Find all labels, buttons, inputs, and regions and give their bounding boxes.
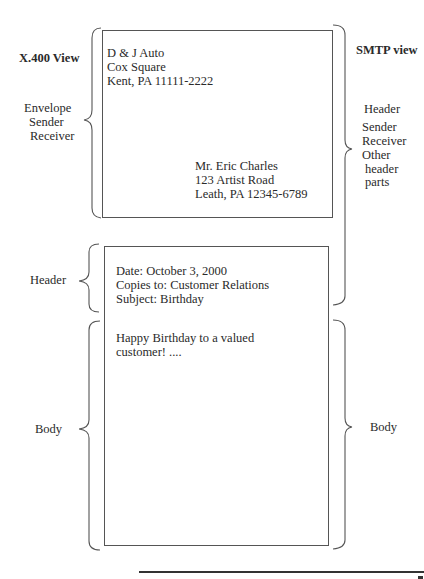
sender-line-3: Kent, PA 11111-2222 bbox=[107, 74, 213, 89]
body-label-left: Body bbox=[35, 422, 62, 437]
body-line-1: Happy Birthday to a valued bbox=[116, 331, 254, 346]
body-label-right: Body bbox=[370, 420, 397, 435]
message-box: Date: October 3, 2000 Copies to: Custome… bbox=[104, 246, 329, 546]
sender-line-2: Cox Square bbox=[107, 60, 166, 75]
header-label-right: Header bbox=[364, 102, 400, 117]
envelope-box: D & J Auto Cox Square Kent, PA 11111-222… bbox=[102, 30, 333, 218]
body-line-2: customer! .... bbox=[116, 345, 182, 360]
recipient-line-1: Mr. Eric Charles bbox=[195, 159, 278, 174]
recipient-line-3: Leath, PA 12345-6789 bbox=[195, 187, 307, 202]
body-brace-left bbox=[79, 321, 100, 550]
page-rule bbox=[139, 571, 424, 573]
sender-line-1: D & J Auto bbox=[107, 46, 164, 61]
envelope-item-receiver: Receiver bbox=[30, 129, 74, 144]
smtp-header-item-sender: Sender bbox=[362, 120, 397, 135]
recipient-line-2: 123 Artist Road bbox=[195, 173, 274, 188]
smtp-header-item-parts: parts bbox=[365, 175, 389, 190]
envelope-item-sender: Sender bbox=[29, 115, 64, 130]
header-subject-line: Subject: Birthday bbox=[116, 292, 204, 307]
header-copies-line: Copies to: Customer Relations bbox=[116, 278, 269, 293]
smtp-header-brace bbox=[333, 25, 352, 305]
header-label-left: Header bbox=[30, 273, 66, 288]
body-brace-right bbox=[333, 320, 352, 549]
header-date-line: Date: October 3, 2000 bbox=[116, 264, 227, 279]
x400-view-title: X.400 View bbox=[19, 51, 79, 66]
header-brace-left bbox=[79, 244, 99, 312]
smtp-view-title: SMTP view bbox=[356, 43, 417, 58]
smtp-header-item-receiver: Receiver bbox=[362, 134, 406, 149]
smtp-header-item-other: Other bbox=[362, 148, 390, 163]
envelope-label: Envelope bbox=[24, 101, 71, 116]
envelope-brace bbox=[84, 28, 101, 218]
